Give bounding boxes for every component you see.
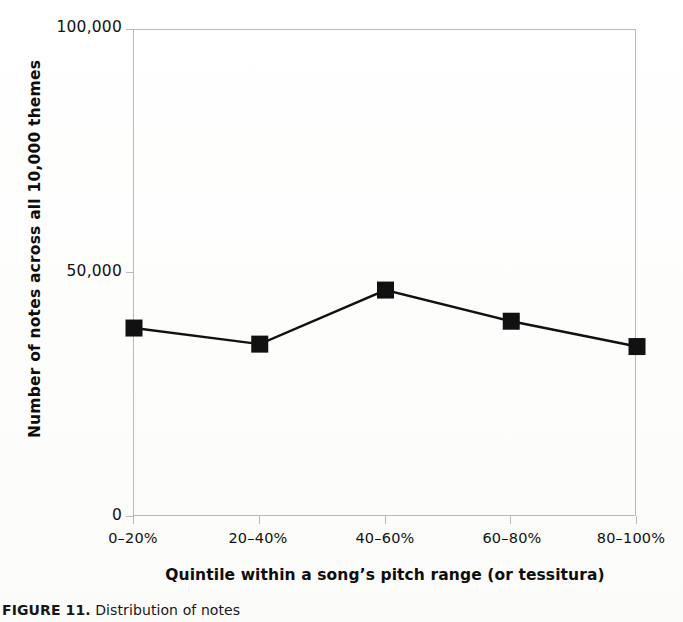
x-axis-tick-mark <box>133 516 134 524</box>
x-axis-tick-mark <box>510 516 511 524</box>
x-axis-tick-label-40-60: 40–60% <box>330 530 440 546</box>
x-axis-tick-mark <box>259 516 260 524</box>
figure-caption-text: Distribution of notes <box>95 602 240 618</box>
x-axis-tick-mark <box>636 516 637 524</box>
figure-chart: 100,000 50,000 0 Number of notes across … <box>0 0 683 622</box>
x-axis-tick-label-0-20: 0–20% <box>78 530 188 546</box>
y-axis-tick-label-100000: 100,000 <box>2 18 122 36</box>
series-markers <box>126 282 646 355</box>
x-axis-tick-label-80-100: 80–100% <box>576 530 683 546</box>
x-axis-tick-label-20-40: 20–40% <box>203 530 313 546</box>
data-point-marker <box>629 338 646 355</box>
figure-caption-label: FIGURE 11. <box>2 602 91 618</box>
data-point-marker <box>126 320 143 337</box>
plot-area <box>133 29 636 516</box>
y-axis-tick-label-50000: 50,000 <box>2 262 122 280</box>
data-point-marker <box>503 313 520 330</box>
x-axis-tick-mark <box>385 516 386 524</box>
x-axis-tick-label-60-80: 60–80% <box>457 530 567 546</box>
figure-caption: FIGURE 11. Distribution of notes <box>2 602 682 618</box>
data-point-marker <box>251 336 268 353</box>
x-axis-title: Quintile within a song’s pitch range (or… <box>120 566 650 584</box>
y-axis-title: Number of notes across all 10,000 themes <box>26 39 44 459</box>
y-axis-tick-label-0: 0 <box>2 506 122 524</box>
data-point-marker <box>377 282 394 299</box>
chart-series-canvas <box>134 30 637 517</box>
